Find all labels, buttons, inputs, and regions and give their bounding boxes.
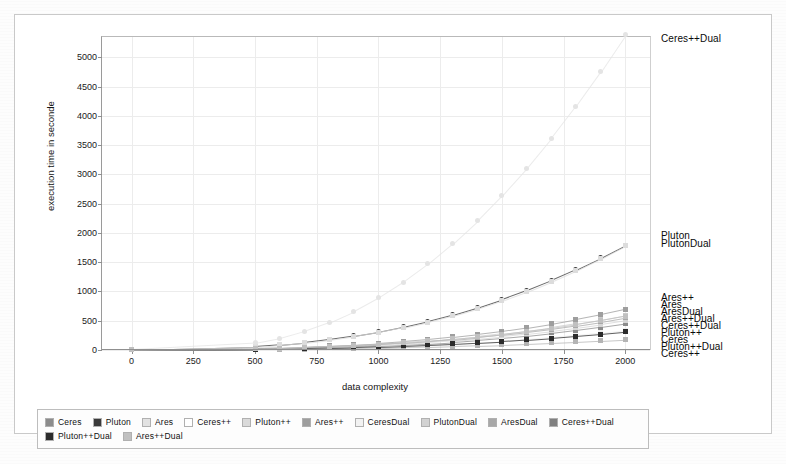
- annotation-label: Ceres++Dual: [661, 33, 721, 44]
- series-line-segment: [576, 320, 601, 325]
- y-tick-label: 0: [92, 345, 97, 355]
- annotation-label: Ceres++: [661, 348, 700, 359]
- data-point: [549, 326, 554, 331]
- legend-label: Ares: [155, 417, 173, 427]
- legend-swatch: [488, 418, 497, 427]
- y-tick-label: 1000: [77, 286, 97, 296]
- series-line-segment: [551, 324, 576, 329]
- data-point: [376, 342, 381, 347]
- series-aresppdual: [102, 37, 650, 350]
- x-tick-label: 1250: [430, 356, 450, 366]
- legend-swatch: [142, 418, 151, 427]
- legend-label: AresDual: [501, 417, 538, 427]
- legend-label: Ceres: [58, 417, 82, 427]
- x-tick-label: 750: [309, 356, 324, 366]
- legend-label: Ares++: [315, 417, 344, 427]
- x-tick-label: 500: [248, 356, 263, 366]
- x-tick-mark: [317, 350, 318, 354]
- data-point: [524, 329, 529, 334]
- series-line-segment: [428, 339, 453, 342]
- legend-swatch: [302, 418, 311, 427]
- x-axis-line: [102, 349, 650, 350]
- y-tick-label: 500: [82, 316, 97, 326]
- series-line-segment: [477, 334, 502, 338]
- legend-label: Pluton: [106, 417, 131, 427]
- legend-item[interactable]: Ceres++Dual: [549, 417, 614, 427]
- data-point: [351, 343, 356, 348]
- legend-item[interactable]: Ceres: [45, 417, 82, 427]
- series-line-segment: [527, 328, 552, 332]
- data-point: [573, 322, 578, 327]
- series-line-segment: [601, 316, 626, 321]
- y-tick-label: 3500: [77, 140, 97, 150]
- chart-frame: execution time in seconde data complexit…: [14, 14, 772, 434]
- x-tick-mark: [625, 350, 626, 354]
- legend-swatch: [123, 432, 132, 441]
- y-tick-label: 2500: [77, 199, 97, 209]
- x-tick-mark: [378, 350, 379, 354]
- x-tick-label: 1500: [492, 356, 512, 366]
- data-point: [401, 340, 406, 345]
- legend-label: Pluton++Dual: [58, 431, 112, 441]
- x-axis-label: data complexity: [101, 381, 649, 392]
- x-tick-label: 1000: [368, 356, 388, 366]
- chart-legend: CeresPlutonAresCeres++Pluton++Ares++Cere…: [37, 409, 649, 449]
- legend-label: Ceres++: [197, 417, 231, 427]
- chart-screenshot: execution time in seconde data complexit…: [0, 0, 786, 464]
- legend-item[interactable]: AresDual: [488, 417, 538, 427]
- legend-item[interactable]: Pluton++Dual: [45, 431, 112, 441]
- y-tick-label: 5000: [77, 52, 97, 62]
- legend-item[interactable]: Ares++Dual: [123, 431, 183, 441]
- legend-item[interactable]: PlutonDual: [421, 417, 478, 427]
- plot-area: 0500100015002000250030003500400045005000…: [101, 36, 651, 350]
- legend-swatch: [355, 418, 364, 427]
- legend-label: PlutonDual: [434, 417, 478, 427]
- x-tick-label: 250: [186, 356, 201, 366]
- x-tick-mark: [502, 350, 503, 354]
- x-tick-label: 1750: [554, 356, 574, 366]
- y-tick-label: 3000: [77, 169, 97, 179]
- legend-swatch: [242, 418, 251, 427]
- y-tick-label: 1500: [77, 257, 97, 267]
- series-line-segment: [329, 345, 354, 347]
- legend-item[interactable]: Ares: [142, 417, 173, 427]
- y-tick-label: 4000: [77, 111, 97, 121]
- series-line-segment: [453, 337, 478, 340]
- legend-label: CeresDual: [368, 417, 410, 427]
- x-tick-mark: [564, 350, 565, 354]
- legend-swatch: [421, 418, 430, 427]
- annotation-label: PlutonDual: [661, 238, 711, 249]
- legend-label: Ares++Dual: [136, 431, 183, 441]
- legend-label: Pluton++: [255, 417, 291, 427]
- series-line-segment: [354, 344, 379, 346]
- legend-swatch: [184, 418, 193, 427]
- y-axis-label: execution time in seconde: [45, 101, 56, 211]
- data-point: [425, 338, 430, 343]
- legend-swatch: [549, 418, 558, 427]
- legend-row-2: Pluton++DualAres++Dual: [45, 429, 641, 443]
- series-line-segment: [304, 346, 329, 348]
- x-tick-mark: [440, 350, 441, 354]
- legend-label: Ceres++Dual: [562, 417, 614, 427]
- x-tick-label: 0: [129, 356, 134, 366]
- legend-swatch: [45, 418, 54, 427]
- y-tick-label: 2000: [77, 228, 97, 238]
- legend-item[interactable]: Pluton++: [242, 417, 291, 427]
- series-line-segment: [502, 331, 527, 335]
- legend-row-1: CeresPlutonAresCeres++Pluton++Ares++Cere…: [45, 415, 641, 429]
- series-line-segment: [403, 341, 428, 344]
- y-tick-label: 4500: [77, 82, 97, 92]
- series-line-segment: [378, 343, 403, 345]
- x-tick-label: 2000: [615, 356, 635, 366]
- legend-swatch: [45, 432, 54, 441]
- legend-item[interactable]: Pluton: [93, 417, 131, 427]
- data-point: [623, 314, 628, 319]
- y-tick-mark: [98, 350, 102, 351]
- data-point: [450, 336, 455, 341]
- legend-item[interactable]: CeresDual: [355, 417, 410, 427]
- data-point: [598, 318, 603, 323]
- data-point: [499, 332, 504, 337]
- data-point: [475, 334, 480, 339]
- legend-item[interactable]: Ares++: [302, 417, 344, 427]
- legend-item[interactable]: Ceres++: [184, 417, 231, 427]
